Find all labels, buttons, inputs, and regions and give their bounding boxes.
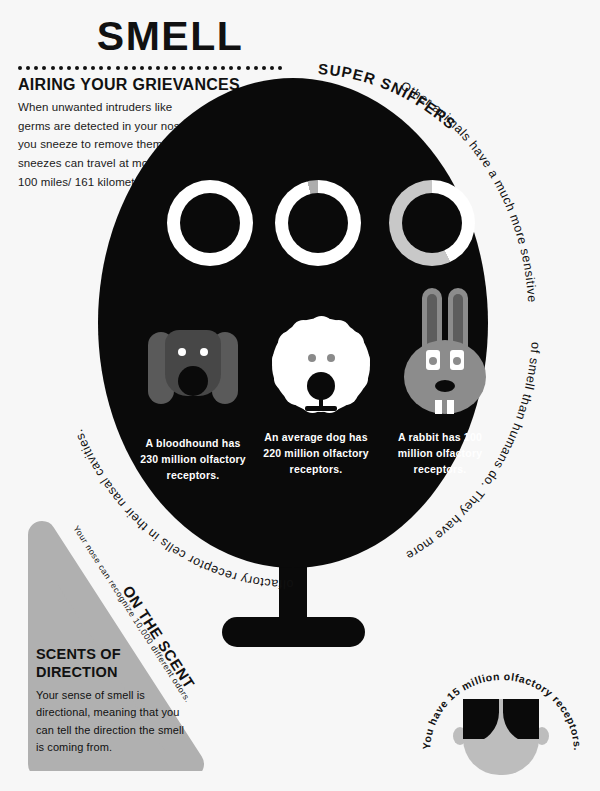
infographic-page: SMELL AIRING YOUR GRIEVANCES When unwant…: [0, 0, 600, 791]
human-receptors-text: You have 15 million olfactory receptors.: [420, 670, 584, 751]
human-receptors-curved-caption: You have 15 million olfactory receptors.: [0, 0, 600, 791]
